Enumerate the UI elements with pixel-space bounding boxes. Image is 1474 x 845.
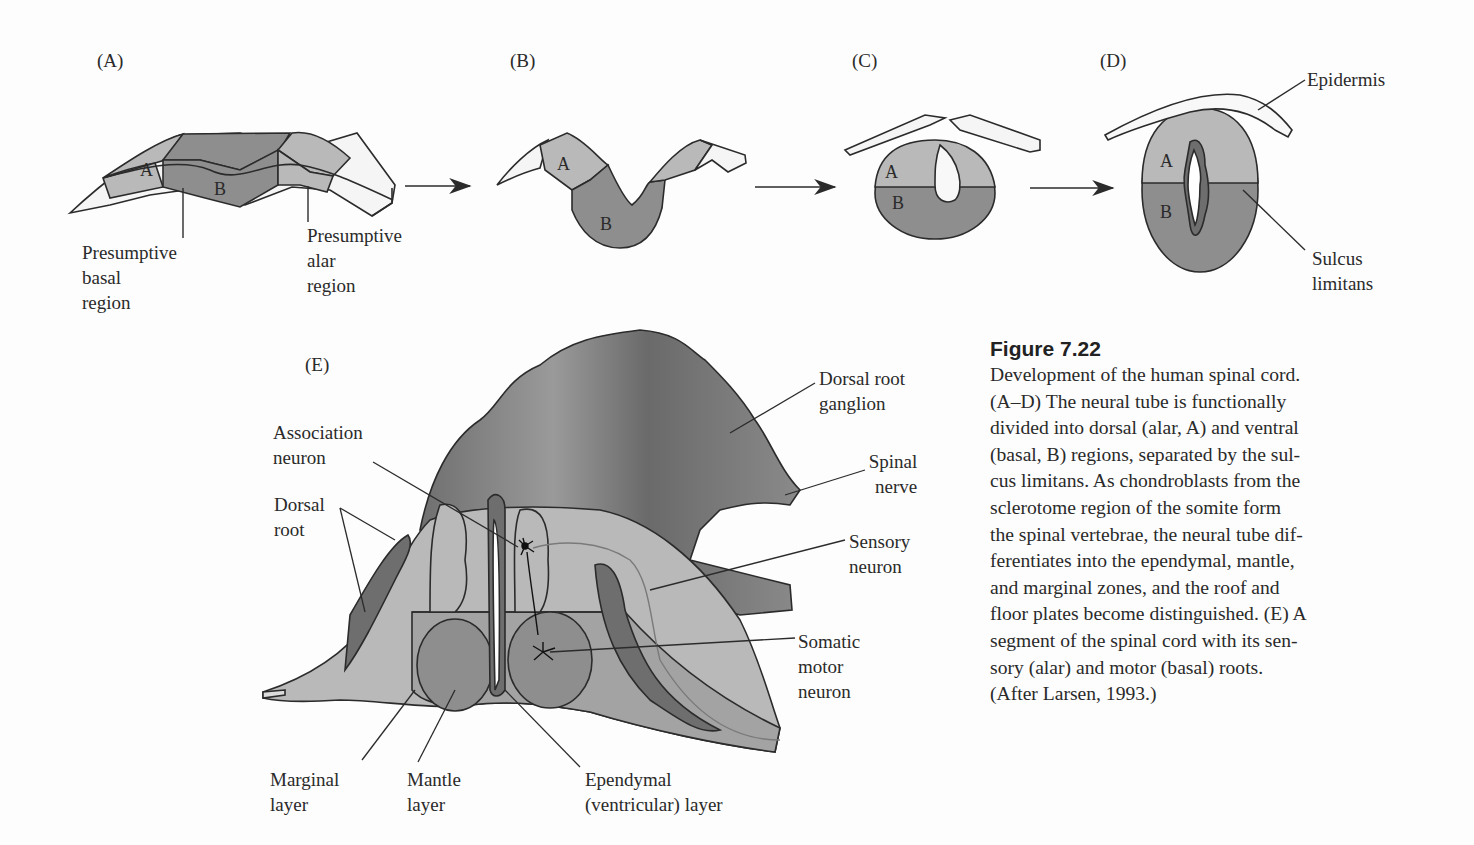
figure-number: Figure 7.22 (990, 336, 1430, 362)
panel-letter-d: (D) (1100, 50, 1126, 72)
svg-text:B: B (1160, 202, 1172, 222)
panel-b-neural-groove (497, 133, 746, 248)
mantle-layer-label: Mantle layer (407, 767, 461, 817)
panel-d-neural-tube (1105, 94, 1292, 272)
epidermis-label: Epidermis (1307, 67, 1385, 92)
somatic-motor-neuron-label: Somatic motor neuron (798, 629, 860, 704)
panel-e-spinal-cord-segment (263, 330, 800, 752)
sulcus-limitans-label: Sulcus limitans (1312, 246, 1373, 296)
association-neuron-label: Association neuron (273, 420, 363, 470)
svg-text:A: A (557, 154, 570, 174)
svg-text:A: A (1160, 151, 1173, 171)
svg-text:B: B (892, 193, 904, 213)
figure-caption: Figure 7.22 Development of the human spi… (990, 336, 1430, 708)
panel-c-closing-tube (845, 115, 1040, 239)
svg-text:A: A (885, 162, 898, 182)
dorsal-root-label: Dorsal root (274, 492, 325, 542)
panel-letter-b: (B) (510, 50, 535, 72)
panel-a-label-b: B (214, 179, 226, 199)
ependymal-layer-label: Ependymal (ventricular) layer (585, 767, 723, 817)
presumptive-alar-region-label: Presumptive alar region (307, 223, 402, 298)
presumptive-basal-region-label: Presumptive basal region (82, 240, 177, 315)
marginal-layer-label: Marginal layer (270, 767, 339, 817)
panel-letter-c: (C) (852, 50, 877, 72)
figure-caption-body: Development of the human spinal cord. (A… (990, 362, 1430, 708)
panel-letter-a: (A) (97, 50, 123, 72)
panel-a-label-a: A (140, 160, 153, 180)
panel-a-neural-plate (70, 132, 395, 216)
dorsal-root-ganglion-label: Dorsal root ganglion (819, 366, 905, 416)
svg-text:B: B (600, 214, 612, 234)
panel-letter-e: (E) (305, 354, 329, 376)
spinal-nerve-label: Spinal nerve (865, 449, 917, 499)
sensory-neuron-label: Sensory neuron (849, 529, 910, 579)
